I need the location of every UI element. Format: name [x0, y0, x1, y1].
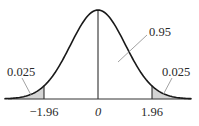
center-probability-label: 0.95 [149, 25, 171, 39]
tick-label-neg-1-96: −1.96 [30, 105, 59, 119]
right-tail-probability-label: 0.025 [162, 65, 190, 79]
left-tail-probability-label: 0.025 [7, 65, 35, 79]
tick-label-pos-1-96: 1.96 [141, 105, 163, 119]
tick-label-zero: 0 [95, 105, 102, 119]
normal-distribution-chart: 0.95 0.025 0.025 −1.96 0 1.96 [0, 0, 199, 126]
chart-svg: 0.95 0.025 0.025 −1.96 0 1.96 [0, 0, 199, 126]
left-leader-line [22, 78, 31, 95]
right-leader-line [163, 78, 172, 95]
